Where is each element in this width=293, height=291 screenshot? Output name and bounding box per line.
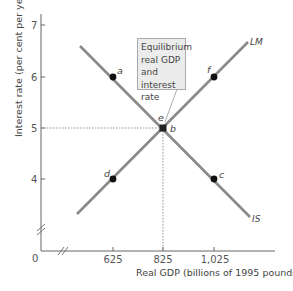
callout-line-4: rate <box>141 91 182 104</box>
label-lm: LM <box>250 37 263 47</box>
label-b: b <box>170 123 176 134</box>
origin-label: 0 <box>32 253 38 264</box>
y-tick-6: 6 <box>31 72 37 83</box>
label-f: f <box>207 64 212 75</box>
x-axis-title: Real GDP (billions of 1995 pounds) <box>136 267 293 278</box>
label-a: a <box>117 65 123 76</box>
callout-line-2: real GDP <box>141 54 182 67</box>
point-a <box>110 74 117 81</box>
y-tick-7: 7 <box>31 20 37 31</box>
y-tick-4: 4 <box>31 174 37 185</box>
point-d <box>110 176 117 183</box>
y-tick-5: 5 <box>31 123 37 134</box>
label-is: IS <box>252 214 261 224</box>
label-c: c <box>219 169 225 180</box>
point-f <box>211 74 218 81</box>
point-c <box>211 176 218 183</box>
x-tick-825: 825 <box>153 254 172 265</box>
label-d: d <box>104 168 111 179</box>
callout-line-3: and interest <box>141 66 182 91</box>
x-tick-625: 625 <box>103 254 122 265</box>
callout-line-1: Equilibrium <box>141 41 182 54</box>
equilibrium-callout: Equilibrium real GDP and interest rate <box>137 38 186 90</box>
y-axis-title: Interest rate (per cent per year) <box>13 0 24 137</box>
y-axis <box>37 14 45 251</box>
point-equilibrium <box>160 125 167 132</box>
x-tick-1025: 1,025 <box>201 254 230 265</box>
label-e: e <box>158 112 164 123</box>
